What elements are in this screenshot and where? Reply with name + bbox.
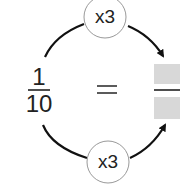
answer-denominator-box[interactable]: [154, 97, 180, 119]
answer-numerator-box[interactable]: [154, 64, 180, 84]
top-operator-label: x3: [87, 6, 123, 28]
top-arrow: [128, 26, 163, 56]
left-denominator: 10: [24, 92, 54, 116]
bottom-operator-label: x3: [90, 151, 126, 173]
bottom-arc-left: [43, 125, 87, 158]
left-numerator: 1: [24, 65, 54, 89]
bottom-arrow: [130, 125, 165, 158]
top-arc-left: [45, 24, 84, 57]
